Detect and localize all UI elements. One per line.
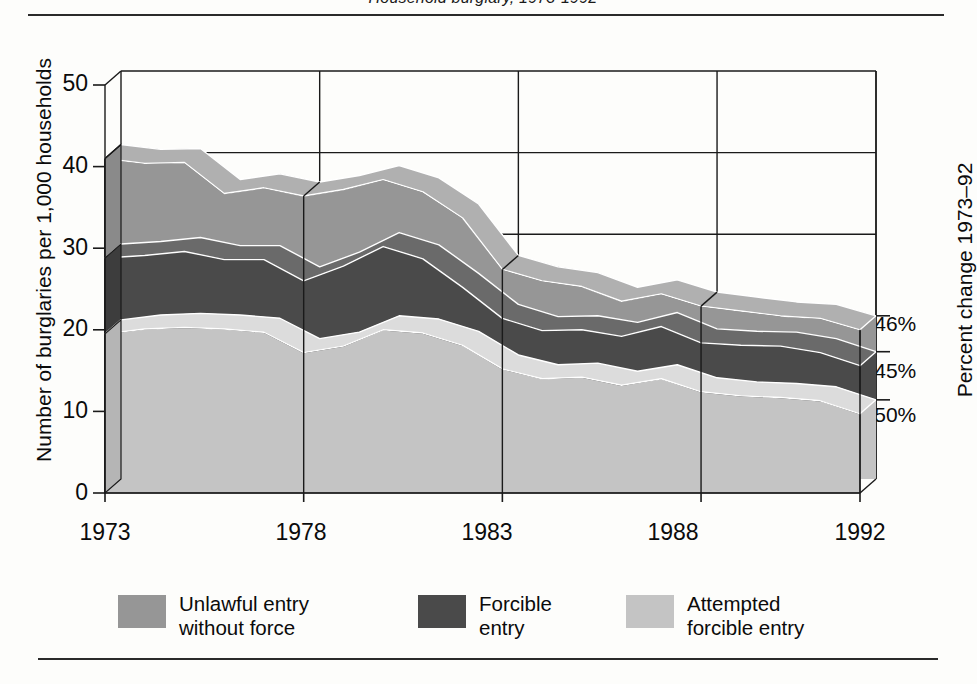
chart-legend: Unlawful entry without force Forcible en… bbox=[118, 592, 878, 646]
legend-item-attempted-entry[interactable]: Attempted forcible entry bbox=[626, 592, 876, 640]
legend-label-forcible-entry: Forcible entry bbox=[479, 592, 552, 640]
legend-item-unlawful-entry[interactable]: Unlawful entry without force bbox=[118, 592, 418, 640]
area-series bbox=[105, 144, 876, 493]
stacked-area-chart bbox=[0, 0, 966, 540]
legend-swatch-forcible-entry bbox=[418, 595, 466, 628]
legend-label-unlawful-entry: Unlawful entry without force bbox=[179, 592, 309, 640]
legend-label-attempted-entry: Attempted forcible entry bbox=[687, 592, 804, 640]
bottom-divider bbox=[38, 658, 938, 660]
legend-swatch-unlawful-entry bbox=[118, 595, 166, 628]
legend-item-forcible-entry[interactable]: Forcible entry bbox=[418, 592, 626, 640]
legend-swatch-attempted-entry bbox=[626, 595, 674, 628]
